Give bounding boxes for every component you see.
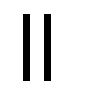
pause-button-label: Pause bbox=[0, 0, 1, 1]
pause-icon-left-bar bbox=[23, 14, 30, 81]
pause-icon-right-bar bbox=[44, 14, 51, 81]
pause-button[interactable]: Pause bbox=[0, 0, 94, 98]
